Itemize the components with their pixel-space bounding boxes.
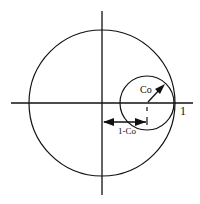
offset-arrowhead-right-icon	[135, 118, 146, 126]
radius-label: Co	[140, 84, 152, 95]
offset-label: 1-Co	[118, 126, 137, 136]
unit-label: 1	[180, 104, 186, 118]
offset-arrowhead-left-icon	[103, 118, 114, 126]
diagram-canvas: Co 1-Co 1	[0, 0, 200, 204]
